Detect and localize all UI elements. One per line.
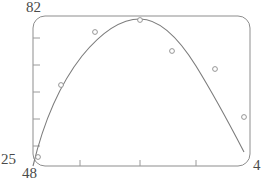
chart-screenshot: 82 25 48 4 [0,0,261,181]
data-points [36,18,247,160]
plot-frame [33,16,250,166]
x-axis-max-label: 4 [253,158,261,173]
data-point [242,115,247,120]
y-axis-min-label: 25 [1,152,16,167]
y-axis-ticks [33,38,40,146]
x-axis-ticks [80,160,196,166]
data-point [93,30,98,35]
data-point [213,67,218,72]
data-point [59,83,64,88]
scatter-plot [0,0,261,181]
x-axis-min-label: 48 [22,166,37,181]
data-point [170,49,175,54]
fit-curve [33,19,244,166]
y-axis-max-label: 82 [26,0,41,15]
data-point [138,18,143,23]
data-point [36,155,41,160]
